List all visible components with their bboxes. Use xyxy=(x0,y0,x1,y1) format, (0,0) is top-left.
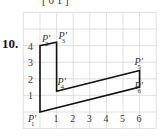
x-tick-label: 1 xyxy=(54,113,59,124)
y-tick-label: 2 xyxy=(28,74,33,85)
y-tick-label: 3 xyxy=(28,57,33,68)
point-subscript: 6 xyxy=(138,87,142,95)
point-subscript: 5 xyxy=(138,63,142,71)
x-tick-label: 6 xyxy=(137,113,142,124)
x-tick-label: 3 xyxy=(87,113,92,124)
point-subscript: 4 xyxy=(61,83,65,91)
transformed-polygon-figure: 1234561234P'1P'2P'3P'4P'5P'6 xyxy=(0,0,160,136)
y-tick-label: 1 xyxy=(28,90,33,101)
point-subscript: 3 xyxy=(62,37,66,45)
point-subscript: 1 xyxy=(31,120,35,128)
point-subscript: 2 xyxy=(45,40,49,48)
x-tick-label: 2 xyxy=(70,113,75,124)
y-tick-label: 4 xyxy=(28,41,33,52)
x-tick-label: 5 xyxy=(120,113,125,124)
x-tick-label: 4 xyxy=(103,113,108,124)
